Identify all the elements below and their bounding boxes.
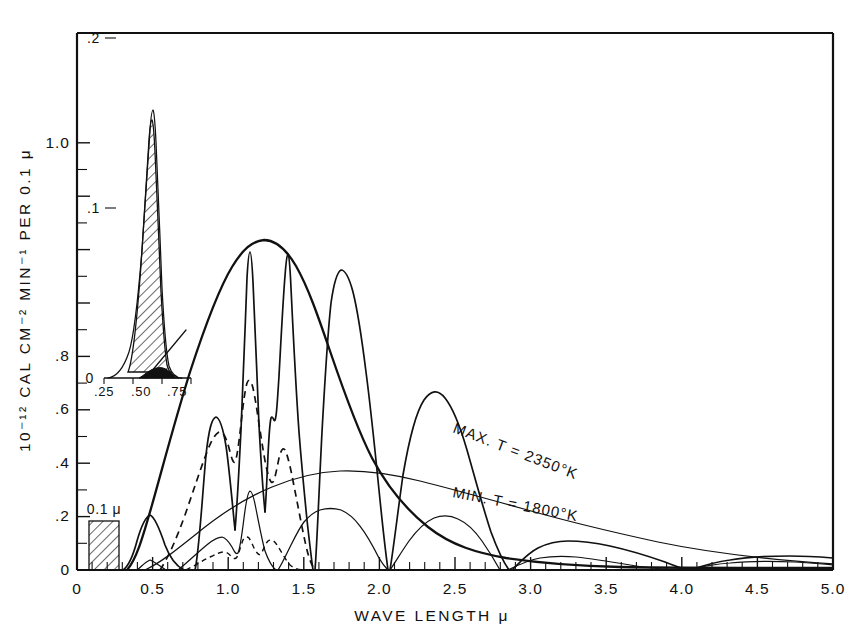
ytick-label-0.4: .4 (55, 454, 70, 471)
xtick-label-3.0: 3.0 (518, 580, 543, 597)
xtick-label-1.0: 1.0 (216, 580, 241, 597)
xtick-label-0: 0 (72, 580, 82, 597)
xtick-label-4.0: 4.0 (670, 580, 695, 597)
inset-x-tick-labels: .25 .50 .75 (94, 384, 187, 399)
inset-xtick-label-0.50: .50 (131, 384, 151, 399)
xtick-label-5.0: 5.0 (821, 580, 846, 597)
ytick-label-1.0: 1.0 (45, 134, 70, 151)
x-axis-title: WAVE LENGTH μ (354, 607, 510, 624)
canvas-background (0, 0, 868, 637)
spectral-irradiance-chart: 0 .2 .4 .6 .8 1.0 (0, 0, 868, 637)
inset-ytick-label-0.2: .2 (87, 30, 100, 46)
xtick-label-2.5: 2.5 (443, 580, 468, 597)
xtick-label-3.5: 3.5 (594, 580, 619, 597)
xtick-label-1.5: 1.5 (292, 580, 317, 597)
reference-bar-label: 0.1 μ (87, 501, 121, 517)
ytick-label-0.6: .6 (55, 400, 70, 417)
inset-ytick-label-0: 0 (86, 370, 94, 386)
inset-xtick-label-0.75: .75 (167, 384, 187, 399)
0.1-micron-width-bar (89, 521, 119, 570)
ytick-label-0.8: .8 (55, 347, 70, 364)
xtick-label-2.0: 2.0 (367, 580, 392, 597)
ytick-label-0.2: .2 (55, 507, 70, 524)
reference-bar-group: 0.1 μ (87, 501, 121, 570)
inset-ytick-label-0.1: .1 (87, 200, 100, 216)
figure-container: 0 .2 .4 .6 .8 1.0 (0, 0, 868, 637)
ytick-label-0: 0 (60, 561, 70, 578)
inset-xtick-label-0.25: .25 (94, 384, 114, 399)
y-axis-title: 10⁻¹² CAL CM⁻² MIN⁻¹ PER 0.1 μ (16, 148, 33, 452)
xtick-label-0.5: 0.5 (140, 580, 165, 597)
xtick-label-4.5: 4.5 (745, 580, 770, 597)
